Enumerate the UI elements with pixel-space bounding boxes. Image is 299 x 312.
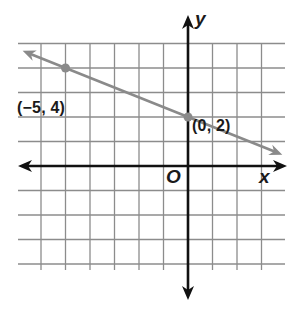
point-label-1: (−5, 4) — [17, 99, 65, 117]
grid-lines — [18, 43, 285, 270]
point-label-2: (0, 2) — [192, 117, 231, 135]
y-axis-label: y — [195, 8, 206, 30]
data-point-1 — [61, 64, 70, 73]
x-axis-label: x — [259, 166, 270, 188]
axes — [18, 15, 287, 300]
origin-label: O — [166, 166, 181, 188]
coordinate-plane — [0, 0, 299, 312]
